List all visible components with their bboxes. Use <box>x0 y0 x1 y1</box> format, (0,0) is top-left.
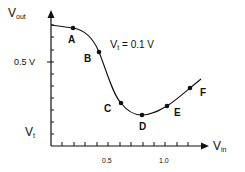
point-f-marker <box>188 86 193 91</box>
point-d-label: D <box>139 122 146 132</box>
x-axis-label: Vin <box>213 140 226 153</box>
threshold-annotation: Vt = 0.1 V <box>110 39 154 51</box>
x-axis-label-main: V <box>213 139 221 153</box>
point-b-label: B <box>84 54 91 64</box>
y-axis-arrow-icon <box>48 10 55 18</box>
point-f-label: F <box>200 88 206 98</box>
x-axis-arrow-icon <box>201 143 209 150</box>
point-e-marker <box>165 104 170 109</box>
y-axis-label-sub: out <box>16 13 26 20</box>
point-a-label: A <box>68 35 75 45</box>
point-b-marker <box>97 50 102 55</box>
x-tick-0-5: 0.5 <box>102 157 112 164</box>
y-tick-vt-sub: t <box>33 132 35 139</box>
y-tick-vt: Vt <box>25 126 35 139</box>
annotation-value: = 0.1 V <box>119 39 154 50</box>
x-tick-1-0: 1.0 <box>159 157 169 164</box>
point-a-marker <box>71 26 76 31</box>
x-axis-label-sub: in <box>221 146 226 153</box>
point-c-label: C <box>104 104 111 114</box>
y-axis-label: Vout <box>8 7 26 20</box>
point-c-marker <box>119 101 124 106</box>
point-e-label: E <box>174 108 181 118</box>
y-axis-label-main: V <box>8 6 16 20</box>
point-d-marker <box>140 113 145 118</box>
y-tick-vt-main: V <box>25 125 33 139</box>
chart-canvas <box>0 0 245 172</box>
y-tick-half-volt: 0.5 V <box>14 58 35 67</box>
